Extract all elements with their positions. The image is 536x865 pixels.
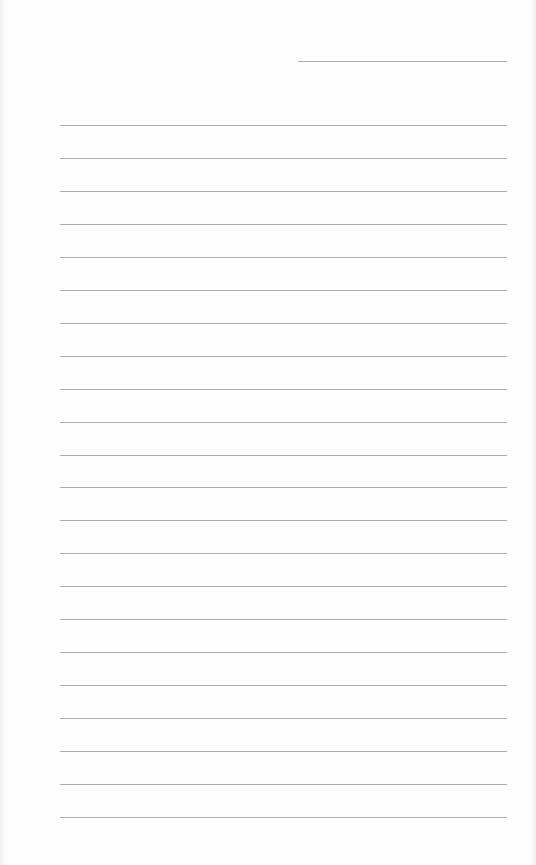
- header-line: [298, 61, 507, 62]
- ruled-line: [60, 191, 507, 192]
- ruled-line: [60, 817, 507, 818]
- ruled-line: [60, 257, 507, 258]
- ruled-line: [60, 290, 507, 291]
- ruled-line: [60, 751, 507, 752]
- ruled-line: [60, 125, 507, 126]
- ruled-line: [60, 718, 507, 719]
- ruled-line: [60, 224, 507, 225]
- right-edge-shadow: [530, 0, 536, 865]
- ruled-line: [60, 553, 507, 554]
- ruled-line: [60, 455, 507, 456]
- ruled-line: [60, 520, 507, 521]
- ruled-line: [60, 487, 507, 488]
- ruled-line: [60, 685, 507, 686]
- ruled-line: [60, 158, 507, 159]
- ruled-line: [60, 422, 507, 423]
- ruled-line: [60, 586, 507, 587]
- lined-paper-sheet: [0, 0, 536, 865]
- ruled-line: [60, 323, 507, 324]
- ruled-line: [60, 784, 507, 785]
- ruled-line: [60, 619, 507, 620]
- ruled-line: [60, 389, 507, 390]
- ruled-line: [60, 652, 507, 653]
- ruled-line: [60, 356, 507, 357]
- left-edge-shadow: [0, 0, 6, 865]
